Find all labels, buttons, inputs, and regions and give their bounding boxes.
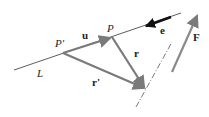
- label-vector-e: e: [160, 25, 165, 36]
- diagram-graphics: [0, 0, 209, 117]
- vector-r-arrow: [112, 37, 144, 87]
- vector-r-prime-arrow: [63, 53, 144, 88]
- label-vector-r-prime: r': [92, 77, 100, 88]
- label-point-p: P: [107, 23, 114, 34]
- force-line-of-action: [136, 42, 172, 107]
- label-vector-u: u: [82, 30, 88, 41]
- label-point-p-prime: P': [55, 38, 64, 49]
- label-force-F: F: [193, 32, 200, 43]
- vector-e-arrow: [146, 17, 171, 26]
- force-F-arrow: [172, 16, 197, 72]
- moment-diagram: P' P u r r' e F L: [0, 0, 209, 117]
- label-line-L: L: [37, 68, 43, 79]
- label-vector-r: r: [134, 48, 139, 59]
